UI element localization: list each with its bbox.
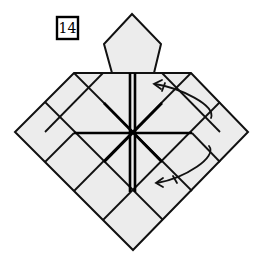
pentagon-flap	[104, 14, 161, 73]
step-number: 14	[59, 20, 77, 36]
base-shape	[15, 73, 248, 250]
origami-diagram: 14	[0, 0, 258, 266]
step-label: 14	[57, 17, 78, 39]
